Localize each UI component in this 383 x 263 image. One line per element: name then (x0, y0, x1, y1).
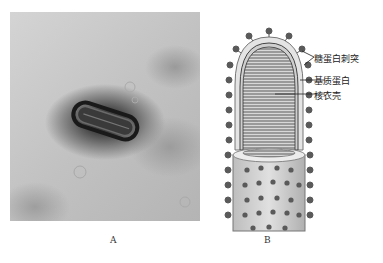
virion-diagram-b (215, 25, 325, 235)
panel-label-a: A (110, 235, 117, 245)
label-matrix-protein: 基质蛋白 (314, 74, 350, 87)
panel-label-b: B (264, 235, 271, 245)
label-nucleocapsid: 核衣壳 (314, 89, 341, 102)
virion-schematic (215, 25, 325, 235)
label-glycoprotein-spike: 糖蛋白刺突 (314, 52, 359, 65)
virus-particle-image (10, 12, 200, 221)
electron-micrograph-a (10, 12, 200, 221)
figure-caption (90, 254, 300, 263)
